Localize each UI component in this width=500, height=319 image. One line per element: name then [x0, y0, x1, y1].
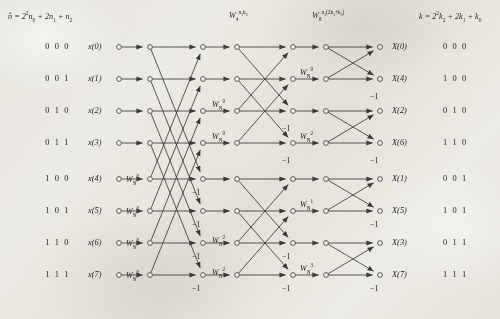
input-sample-label-3: x(3)	[88, 138, 101, 147]
tw-s1-r5: WN0	[126, 207, 139, 216]
flow-node	[201, 209, 206, 214]
flow-node	[201, 77, 206, 82]
butterfly-cross-edge	[239, 81, 289, 138]
tw-s3-r3: WN2	[300, 132, 313, 141]
input-binary-label-6: 1 1 0	[0, 238, 70, 247]
m1-s3-r1: −1	[370, 92, 379, 101]
butterfly-cross-edge	[151, 145, 200, 268]
input-binary-label-0: 0 0 0	[0, 42, 70, 51]
flow-node	[148, 177, 153, 182]
flow-node	[148, 241, 153, 246]
output-binary-label-1: 1 0 0	[443, 74, 468, 83]
flow-node	[201, 241, 206, 246]
flow-node	[324, 177, 329, 182]
m1-s1-r4: −1	[192, 188, 201, 197]
flow-node	[235, 77, 240, 82]
output-sample-label-0: X(0)	[392, 42, 407, 51]
flow-node	[324, 241, 329, 246]
output-binary-label-4: 0 0 1	[443, 174, 468, 183]
input-binary-label-7: 1 1 1	[0, 270, 70, 279]
stage2-twiddle-header: W4n1k0	[229, 11, 248, 20]
flow-node	[235, 177, 240, 182]
m1-s3-r7: −1	[370, 284, 379, 293]
flow-node	[291, 273, 296, 278]
butterfly-cross-edge	[328, 183, 374, 210]
tw-s3-r1: WN0	[300, 68, 313, 77]
input-sample-label-1: x(1)	[88, 74, 101, 83]
node-layer	[117, 45, 383, 278]
input-binary-label-5: 1 0 1	[0, 206, 70, 215]
butterfly-cross-edge	[239, 49, 289, 106]
input-sample-label-4: x(4)	[88, 174, 101, 183]
butterfly-cross-edge	[328, 244, 374, 271]
flow-node	[291, 177, 296, 182]
flow-node	[201, 109, 206, 114]
butterfly-cross-edge	[239, 181, 289, 238]
m1-s2-r6: −1	[282, 252, 291, 261]
flow-node	[117, 241, 122, 246]
output-sample-label-6: X(3)	[392, 238, 407, 247]
input-binary-label-3: 0 1 1	[0, 138, 70, 147]
flow-node	[291, 109, 296, 114]
flow-node	[148, 45, 153, 50]
butterfly-cross-edge	[239, 53, 289, 110]
output-binary-label-3: 1 1 0	[443, 138, 468, 147]
flow-node	[235, 141, 240, 146]
butterfly-cross-edge	[239, 217, 289, 274]
flow-node	[324, 45, 329, 50]
output-binary-label-5: 1 0 1	[443, 206, 468, 215]
output-binary-label-2: 0 1 0	[443, 106, 468, 115]
butterfly-cross-edge	[328, 115, 374, 142]
output-sample-label-2: X(2)	[392, 106, 407, 115]
flow-node	[291, 45, 296, 50]
flow-node	[291, 209, 296, 214]
output-binary-label-7: 1 1 1	[443, 270, 468, 279]
tw-s2-r6: WN2	[212, 236, 225, 245]
flow-node	[117, 141, 122, 146]
output-binary-label-6: 0 1 1	[443, 238, 468, 247]
output-sample-label-7: X(7)	[392, 270, 407, 279]
m1-s2-r3: −1	[282, 156, 291, 165]
tw-s3-r7: WN3	[300, 264, 313, 273]
tw-s1-r4: WN0	[126, 175, 139, 184]
butterfly-cross-edge	[239, 213, 289, 270]
flow-node	[201, 141, 206, 146]
output-binary-label-0: 0 0 0	[443, 42, 468, 51]
butterfly-cross-edge	[151, 113, 200, 236]
butterfly-cross-edge	[328, 247, 374, 274]
m1-s1-r7: −1	[192, 284, 201, 293]
flow-node	[201, 273, 206, 278]
output-sample-label-4: X(1)	[392, 174, 407, 183]
input-sample-label-2: x(2)	[88, 106, 101, 115]
flow-node	[324, 141, 329, 146]
m1-s2-r2: −1	[282, 124, 291, 133]
flow-node	[378, 77, 383, 82]
flow-node	[148, 209, 153, 214]
input-index-formula: n̂ = 22n0 + 2n1 + n2	[8, 12, 72, 21]
flow-node	[378, 209, 383, 214]
output-sample-label-3: X(6)	[392, 138, 407, 147]
flow-node	[201, 45, 206, 50]
tw-s3-r5: WN1	[300, 200, 313, 209]
flow-node	[235, 273, 240, 278]
flow-node	[117, 177, 122, 182]
butterfly-cross-edge	[328, 48, 374, 75]
m1-s1-r6: −1	[192, 252, 201, 261]
m1-s3-r5: −1	[370, 220, 379, 229]
tw-s1-r6: WN0	[126, 239, 139, 248]
flow-node	[291, 141, 296, 146]
flow-node	[201, 177, 206, 182]
flow-node	[235, 241, 240, 246]
input-sample-label-0: x(0)	[88, 42, 101, 51]
tw-s2-r2: WN0	[212, 100, 225, 109]
flow-node	[117, 109, 122, 114]
edge-layer	[121, 47, 373, 275]
flow-node	[235, 209, 240, 214]
butterfly-cross-edge	[328, 180, 374, 207]
output-index-formula: k = 22k2 + 2k1 + k0	[419, 12, 481, 21]
flow-node	[117, 209, 122, 214]
flow-node	[378, 109, 383, 114]
butterfly-cross-edge	[328, 51, 374, 78]
flow-node	[378, 241, 383, 246]
flow-node	[235, 45, 240, 50]
